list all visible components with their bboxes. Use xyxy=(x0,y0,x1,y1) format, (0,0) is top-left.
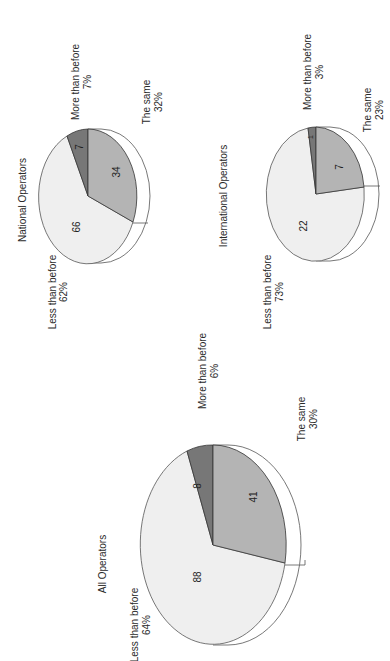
title-international-operators: International Operators xyxy=(218,145,229,247)
label-same-national: The same xyxy=(141,79,152,124)
pct-less-international: 73% xyxy=(274,282,285,302)
value-more: 7 xyxy=(74,144,85,150)
title-national-operators: National Operators xyxy=(17,158,28,242)
value-more: 1 xyxy=(307,135,314,139)
pct-less-all: 64% xyxy=(141,615,152,635)
pct-less-national: 62% xyxy=(58,282,69,302)
label-less-international: Less than before xyxy=(262,254,273,329)
value-less: 88 xyxy=(192,571,203,583)
slice-the-same xyxy=(213,445,286,563)
value-same: 41 xyxy=(248,491,259,503)
slice-the-same xyxy=(316,127,364,194)
value-more: 8 xyxy=(192,483,203,489)
value-same: 34 xyxy=(111,166,122,178)
pct-same-international: 23% xyxy=(374,100,385,120)
title-all-operators: All Operators xyxy=(97,535,108,593)
label-more-national: More than before xyxy=(70,43,81,120)
label-less-national: Less than before xyxy=(47,254,58,329)
pie-national-operators: 7 34 66 xyxy=(39,129,150,264)
label-more-international: More than before xyxy=(302,33,313,110)
pie-all-operators: 8 41 88 xyxy=(140,445,305,645)
pct-same-all: 30% xyxy=(308,409,319,429)
charts-figure: 8 41 88 All Operators Less than before 6… xyxy=(0,0,390,661)
label-same-international: The same xyxy=(362,87,373,132)
value-less: 66 xyxy=(71,221,82,233)
pct-same-national: 32% xyxy=(153,92,164,112)
label-same-all: The same xyxy=(296,396,307,441)
pct-more-national: 7% xyxy=(82,75,93,90)
label-more-all: More than before xyxy=(197,332,208,409)
label-less-all: Less than before xyxy=(129,587,140,661)
pie-international-operators: 1 7 22 xyxy=(266,127,380,261)
pct-more-international: 3% xyxy=(314,65,325,80)
pct-more-all: 6% xyxy=(209,364,220,379)
value-less: 22 xyxy=(298,220,309,232)
value-same: 7 xyxy=(334,164,345,170)
